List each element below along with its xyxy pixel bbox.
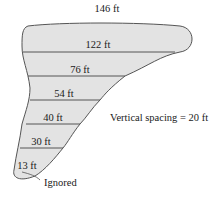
label-122: 122 ft xyxy=(86,39,111,50)
label-30: 30 ft xyxy=(31,136,51,147)
ignored-label: Ignored xyxy=(44,177,77,188)
label-146: 146 ft xyxy=(95,3,120,14)
diagram-canvas: 146 ft 122 ft 76 ft 54 ft 40 ft 30 ft 13… xyxy=(0,0,220,200)
spacing-label: Vertical spacing = 20 ft xyxy=(110,112,208,123)
label-54: 54 ft xyxy=(54,88,74,99)
label-13: 13 ft xyxy=(17,160,37,171)
label-76: 76 ft xyxy=(70,64,90,75)
label-40: 40 ft xyxy=(43,112,63,123)
